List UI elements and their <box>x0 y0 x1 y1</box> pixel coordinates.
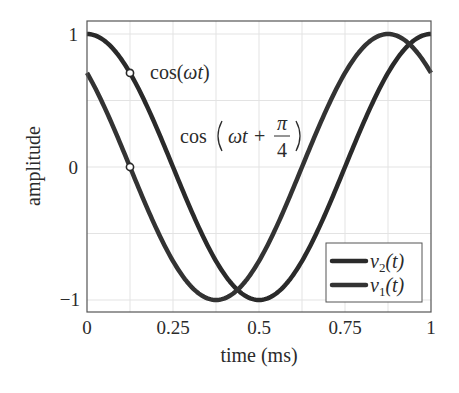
y-tick-label-neg1: −1 <box>60 289 80 310</box>
x-tick-label-0-5: 0.5 <box>247 317 271 338</box>
x-tick-label-0-75: 0.75 <box>328 317 361 338</box>
svg-text:cos: cos <box>180 125 207 147</box>
annotation-cos-wt-plus-pi-over-4: cos ωt + π 4 <box>180 112 300 161</box>
open-circle-marker <box>126 163 133 170</box>
svg-text:4: 4 <box>277 139 287 161</box>
svg-text:π: π <box>277 112 288 134</box>
x-axis-label: time (ms) <box>220 344 297 367</box>
svg-text:ωt +: ωt + <box>228 125 266 147</box>
annotation-cos-wt: cos(ωt) <box>150 61 210 84</box>
x-tick-label-1: 1 <box>426 317 436 338</box>
x-tick-label-0: 0 <box>82 317 92 338</box>
x-tick-label-0-25: 0.25 <box>156 317 189 338</box>
y-tick-label-0: 0 <box>69 157 79 178</box>
legend-label-v2: v2(t) <box>370 250 405 275</box>
y-axis-label: amplitude <box>22 126 45 206</box>
open-circle-marker <box>126 69 133 76</box>
y-tick-label-1: 1 <box>69 24 79 45</box>
chart: 1 0 −1 0 0.25 0.5 0.75 1 time (ms) ampli… <box>0 0 459 393</box>
legend: v2(t) v1(t) <box>326 243 422 302</box>
legend-label-v1: v1(t) <box>370 274 405 299</box>
